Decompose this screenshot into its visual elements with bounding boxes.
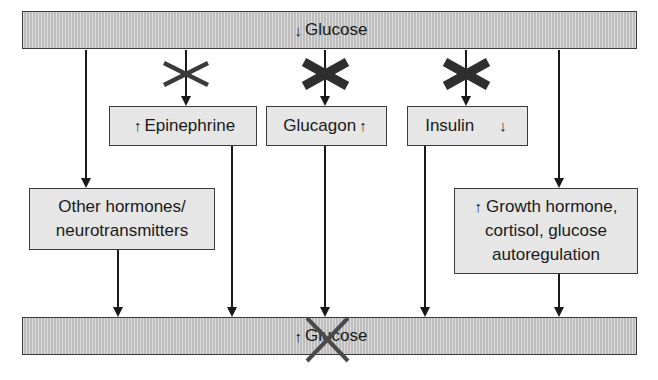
cross-out-icon — [307, 318, 348, 361]
thick-x-icon — [445, 62, 488, 86]
thin-x-icon — [164, 63, 208, 85]
block-crosses — [0, 0, 658, 380]
thick-x-icon — [304, 62, 347, 86]
